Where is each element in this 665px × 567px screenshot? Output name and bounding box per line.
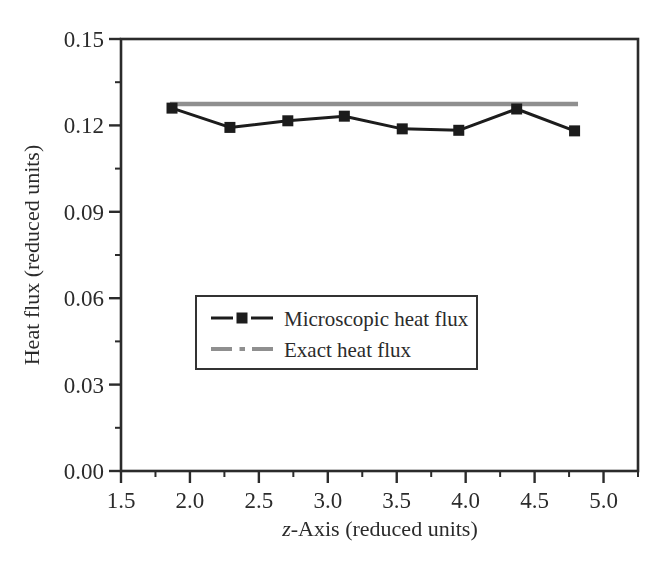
y-tick-label: 0.12 xyxy=(64,113,104,138)
x-tick-label: 5.0 xyxy=(589,488,618,513)
data-point-marker xyxy=(167,103,178,114)
x-tick-label: 4.0 xyxy=(451,488,480,513)
y-tick-label: 0.15 xyxy=(64,27,104,52)
x-tick-label: 1.5 xyxy=(107,488,136,513)
legend-label-exact: Exact heat flux xyxy=(284,338,412,362)
y-tick-label: 0.00 xyxy=(64,459,104,484)
legend: Microscopic heat flux Exact heat flux xyxy=(196,296,477,369)
x-tick-label: 2.0 xyxy=(176,488,205,513)
x-axis-tick-labels: 1.52.02.53.03.54.04.55.0 xyxy=(107,488,618,513)
data-point-marker xyxy=(397,123,408,134)
x-axis-title-italic: z xyxy=(281,516,291,541)
y-tick-label: 0.06 xyxy=(64,286,104,311)
data-point-marker xyxy=(339,111,350,122)
x-axis-title: z-Axis (reduced units) xyxy=(281,516,478,541)
y-axis-tick-labels: 0.000.030.060.090.120.15 xyxy=(64,27,104,484)
x-tick-label: 2.5 xyxy=(244,488,273,513)
x-tick-label: 3.5 xyxy=(382,488,411,513)
data-point-marker xyxy=(282,115,293,126)
data-point-marker xyxy=(569,125,580,136)
x-tick-label: 4.5 xyxy=(520,488,549,513)
legend-sample-square-marker xyxy=(237,313,248,324)
data-point-marker xyxy=(224,122,235,133)
y-tick-label: 0.03 xyxy=(64,373,104,398)
data-point-marker xyxy=(511,103,522,114)
heat-flux-chart: 1.52.02.53.03.54.04.55.0 0.000.030.060.0… xyxy=(0,0,665,567)
data-point-marker xyxy=(453,125,464,136)
y-tick-label: 0.09 xyxy=(64,200,104,225)
x-tick-label: 3.0 xyxy=(313,488,342,513)
heat-flux-figure: 1.52.02.53.03.54.04.55.0 0.000.030.060.0… xyxy=(0,0,665,567)
y-axis-title: Heat flux (reduced units) xyxy=(19,145,44,366)
x-axis-title-rest: -Axis (reduced units) xyxy=(291,516,478,541)
legend-label-microscopic: Microscopic heat flux xyxy=(284,307,469,331)
